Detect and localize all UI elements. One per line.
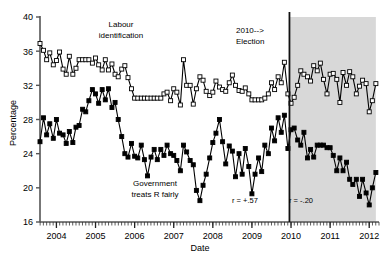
x-axis-title: Date bbox=[160, 243, 240, 253]
y-tick-label: 32 bbox=[23, 81, 33, 91]
y-axis-title: Percentage bbox=[8, 93, 18, 153]
x-tick-label: 2004 bbox=[46, 231, 66, 241]
election-line1: 2010--> bbox=[236, 25, 282, 36]
y-tick-label: 20 bbox=[23, 183, 33, 193]
y-tick-label: 28 bbox=[23, 115, 33, 125]
x-tick-label: 2010 bbox=[281, 231, 301, 241]
x-tick-label: 2011 bbox=[320, 231, 339, 241]
labour-identification-line2: identification bbox=[75, 30, 167, 41]
y-tick-label: 16 bbox=[23, 217, 33, 227]
y-tick-label: 40 bbox=[23, 12, 33, 22]
x-tick-label: 2006 bbox=[125, 231, 145, 241]
x-tick-label: 2009 bbox=[242, 231, 262, 241]
election-annotation: 2010--> Election bbox=[236, 25, 282, 47]
x-tick-label: 2012 bbox=[359, 231, 379, 241]
election-line2: Election bbox=[236, 36, 282, 47]
chart-figure: 1620242832364020042005200620072008200920… bbox=[0, 0, 390, 263]
y-tick-label: 36 bbox=[23, 47, 33, 57]
x-tick-label: 2008 bbox=[203, 231, 223, 241]
government-fairly-line2: treats R fairly bbox=[110, 189, 200, 200]
government-fairly-line1: Government bbox=[110, 178, 200, 189]
x-tick-label: 2007 bbox=[164, 231, 184, 241]
x-tick-label: 2005 bbox=[86, 231, 106, 241]
time-series-chart: 1620242832364020042005200620072008200920… bbox=[0, 0, 390, 263]
y-tick-label: 24 bbox=[23, 149, 33, 159]
correlation-pre-election: r = +.57 bbox=[232, 196, 258, 205]
government-fairly-annotation: Government treats R fairly bbox=[110, 178, 200, 200]
labour-identification-line1: Labour bbox=[75, 19, 167, 30]
labour-identification-annotation: Labour identification bbox=[75, 19, 167, 41]
correlation-post-election: r = -.20 bbox=[289, 196, 313, 205]
post-election-shaded-region bbox=[289, 17, 375, 222]
